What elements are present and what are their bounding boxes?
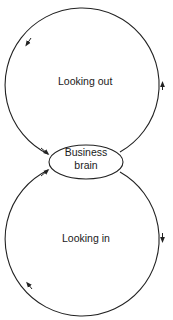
business-brain-line2: brain [50,159,122,172]
looking-in-label: Looking in [62,232,110,244]
arrow-up-left-icon [28,284,32,289]
business-brain-label: Business brain [50,146,122,172]
business-brain-line1: Business [50,146,122,159]
looking-out-label: Looking out [58,75,112,87]
arrow-down-left-icon [27,38,31,44]
